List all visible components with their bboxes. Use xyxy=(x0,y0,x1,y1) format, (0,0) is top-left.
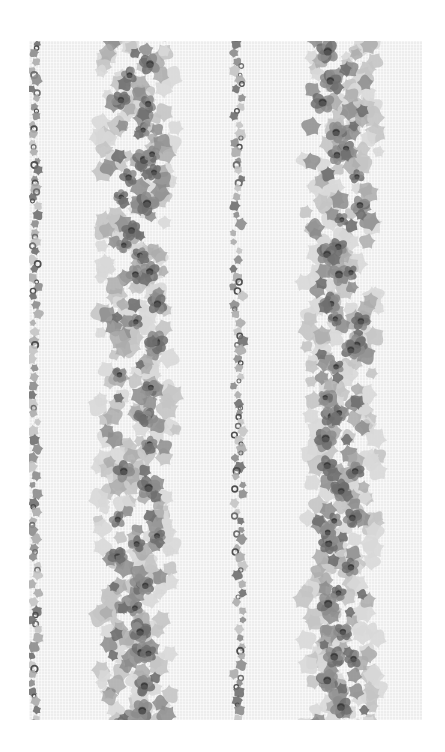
leaf-shape xyxy=(237,588,248,599)
leaf-shape xyxy=(229,265,238,273)
leaf-shape xyxy=(233,255,244,265)
leaf-shape xyxy=(237,605,249,617)
leaf-shape xyxy=(237,290,248,302)
leaf-shape xyxy=(157,215,172,230)
leaf-shape xyxy=(235,317,246,329)
leaf-shape xyxy=(30,55,43,68)
leaf-shape xyxy=(233,217,248,232)
leaf-shape xyxy=(231,454,239,463)
leaf-shape xyxy=(33,418,42,427)
leaf-shape xyxy=(29,363,40,374)
leaf-shape xyxy=(227,198,243,214)
leaf-shape xyxy=(92,324,110,342)
wallpaper-swatch xyxy=(29,41,422,720)
leaf-shape xyxy=(236,525,246,535)
leaf-shape xyxy=(29,460,38,473)
leaf-shape xyxy=(229,41,244,52)
leaf-shape xyxy=(29,678,37,689)
bud-shape xyxy=(238,675,243,680)
leaf-shape xyxy=(32,568,45,581)
leaf-shape xyxy=(32,586,45,599)
page-canvas xyxy=(0,0,445,752)
leaf-shape xyxy=(29,372,40,383)
leaf-shape xyxy=(237,425,250,437)
leaf-shape xyxy=(228,298,240,311)
leaf-shape xyxy=(29,319,37,327)
leaf-shape xyxy=(298,114,323,139)
leaf-shape xyxy=(239,616,246,624)
leaf-shape xyxy=(234,101,247,114)
leaf-shape xyxy=(229,498,241,509)
leaf-shape xyxy=(29,595,40,609)
stripe-layer xyxy=(29,41,392,720)
leaf-shape xyxy=(29,480,38,490)
floral-stripe-1 xyxy=(83,41,187,720)
leaf-shape xyxy=(234,624,245,635)
leaf-shape xyxy=(363,365,379,381)
leaf-shape xyxy=(29,353,37,364)
leaf-shape xyxy=(235,246,244,255)
left-edge-vine xyxy=(29,41,46,720)
leaf-shape xyxy=(236,578,248,590)
leaf-shape xyxy=(30,264,39,273)
leaf-shape xyxy=(233,390,242,399)
leaf-shape xyxy=(235,120,244,130)
leaf-shape xyxy=(232,210,242,220)
leaf-shape xyxy=(29,147,39,157)
leaf-shape xyxy=(31,704,42,715)
leaf-shape xyxy=(29,651,37,662)
leaf-shape xyxy=(111,528,130,547)
leaf-shape xyxy=(228,228,238,238)
floral-stripe-2 xyxy=(290,41,392,720)
leaf-shape xyxy=(238,480,248,490)
center-vine xyxy=(226,41,251,720)
leaf-shape xyxy=(30,110,43,122)
floral-pattern xyxy=(29,41,422,720)
leaf-shape xyxy=(234,156,244,165)
leaf-shape xyxy=(29,685,39,698)
leaf-shape xyxy=(230,238,237,246)
bud-shape xyxy=(232,486,238,492)
leaf-shape xyxy=(232,543,241,552)
leaf-shape xyxy=(229,48,239,58)
leaf-shape xyxy=(235,533,248,546)
leaf-shape xyxy=(235,633,245,643)
leaf-shape xyxy=(30,298,43,311)
leaf-shape xyxy=(236,92,248,104)
leaf-shape xyxy=(150,41,174,45)
leaf-shape xyxy=(32,560,43,571)
leaf-shape xyxy=(231,191,243,203)
leaf-shape xyxy=(231,597,241,607)
bud-shape xyxy=(232,513,238,519)
